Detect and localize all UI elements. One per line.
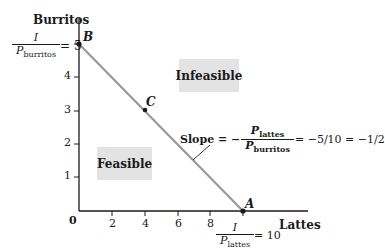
x-tick-6: 6 [175, 217, 182, 230]
y-axis-title: Burritos [33, 13, 89, 27]
x-tick-2: 2 [109, 217, 116, 230]
y-tick-1: 1 [64, 169, 71, 182]
x-axis-title: Lattes [279, 218, 321, 232]
slope-value: = −5/10 = −1/2 [295, 133, 385, 146]
y-intercept-label: I Pburritos = 5 [14, 32, 82, 59]
point-c-label: C [146, 95, 156, 109]
y-tick-2: 2 [64, 136, 71, 149]
y-intercept-fraction: I Pburritos [14, 32, 58, 59]
x-intercept-fraction: I Plattes [218, 222, 252, 249]
y-tick-4: 4 [64, 69, 71, 82]
x-tick-8: 8 [207, 217, 214, 230]
x-tick-4: 4 [142, 217, 149, 230]
slope-prefix: Slope = − [180, 133, 240, 146]
infeasible-region-label: Infeasible [179, 59, 239, 92]
x-intercept-label: I Plattes = 10 [218, 222, 281, 249]
origin-label: 0 [69, 214, 77, 227]
feasible-region-label: Feasible [97, 147, 152, 180]
y-ticks [74, 44, 79, 177]
y-tick-3: 3 [64, 103, 71, 116]
point-a-label: A [245, 197, 254, 211]
slope-annotation: Slope = − Plattes Pburritos = −5/10 = −1… [180, 125, 385, 153]
x-ticks [112, 211, 243, 216]
slope-fraction: Plattes Pburritos [243, 125, 292, 153]
point-b-label: B [83, 30, 93, 44]
